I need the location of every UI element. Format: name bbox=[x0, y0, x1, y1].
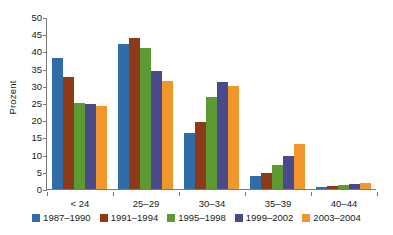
bar bbox=[206, 97, 217, 189]
bar bbox=[283, 156, 294, 189]
legend-item[interactable]: 1999–2002 bbox=[235, 213, 294, 223]
x-tick-mark bbox=[179, 192, 180, 196]
legend-label: 1995–1998 bbox=[178, 213, 226, 223]
y-tick-label: 45 bbox=[6, 30, 42, 40]
bars-layer bbox=[47, 18, 376, 189]
y-tick-label: 35 bbox=[6, 65, 42, 75]
bar bbox=[261, 173, 272, 189]
bar bbox=[294, 144, 305, 189]
bar bbox=[96, 106, 107, 189]
bar bbox=[217, 82, 228, 189]
x-tick-mark bbox=[113, 192, 114, 196]
legend-swatch-icon bbox=[100, 214, 108, 222]
bar-group bbox=[179, 18, 245, 189]
bar bbox=[184, 133, 195, 189]
y-tick-label: 15 bbox=[6, 134, 42, 144]
x-axis-label: 25–29 bbox=[113, 192, 179, 209]
y-tick-label: 10 bbox=[6, 151, 42, 161]
legend-item[interactable]: 1987–1990 bbox=[32, 213, 91, 223]
bar bbox=[85, 104, 96, 189]
bar bbox=[74, 103, 85, 189]
bar bbox=[349, 184, 360, 189]
y-tick-label: 20 bbox=[6, 116, 42, 126]
bar-group bbox=[310, 18, 376, 189]
x-tick-mark bbox=[245, 192, 246, 196]
bar-group bbox=[244, 18, 310, 189]
bar bbox=[272, 165, 283, 189]
bar bbox=[140, 48, 151, 189]
legend-swatch-icon bbox=[32, 214, 40, 222]
legend-label: 1999–2002 bbox=[246, 213, 294, 223]
x-tick-mark bbox=[47, 192, 48, 196]
bar bbox=[118, 44, 129, 189]
x-axis-labels: < 2425–2930–3435–3940–44 bbox=[47, 192, 377, 209]
y-tick-label: 30 bbox=[6, 82, 42, 92]
bar-group bbox=[113, 18, 179, 189]
bar bbox=[52, 58, 63, 189]
y-tick-mark bbox=[43, 190, 47, 191]
y-tick-label: 5 bbox=[6, 168, 42, 178]
x-axis-label: 30–34 bbox=[179, 192, 245, 209]
legend-label: 1991–1994 bbox=[111, 213, 159, 223]
y-tick-label: 40 bbox=[6, 48, 42, 58]
bar bbox=[195, 122, 206, 189]
bar bbox=[338, 185, 349, 189]
legend-item[interactable]: 2003–2004 bbox=[302, 213, 361, 223]
y-tick-label: 25 bbox=[6, 99, 42, 109]
x-axis-label: 40–44 bbox=[311, 192, 377, 209]
x-tick-mark bbox=[377, 192, 378, 196]
bar bbox=[151, 71, 162, 189]
y-tick-label: 50 bbox=[6, 13, 42, 23]
legend-swatch-icon bbox=[235, 214, 243, 222]
bar bbox=[360, 183, 371, 189]
x-axis-label: < 24 bbox=[47, 192, 113, 209]
x-tick-mark bbox=[311, 192, 312, 196]
legend-item[interactable]: 1991–1994 bbox=[100, 213, 159, 223]
x-axis-line bbox=[46, 189, 376, 190]
legend-item[interactable]: 1995–1998 bbox=[167, 213, 226, 223]
bar bbox=[327, 186, 338, 189]
plot-area: 05101520253035404550 bbox=[46, 18, 376, 190]
legend-swatch-icon bbox=[302, 214, 310, 222]
y-tick-label: 0 bbox=[6, 185, 42, 195]
bar bbox=[316, 187, 327, 189]
bar bbox=[228, 86, 239, 189]
legend-label: 2003–2004 bbox=[313, 213, 361, 223]
bar bbox=[162, 81, 173, 189]
chart-legend: 1987–19901991–19941995–19981999–20022003… bbox=[0, 213, 393, 223]
bar bbox=[63, 77, 74, 189]
bar bbox=[250, 176, 261, 189]
bar-chart-figure: Prozent 05101520253035404550 < 2425–2930… bbox=[0, 0, 393, 235]
x-axis-label: 35–39 bbox=[245, 192, 311, 209]
legend-swatch-icon bbox=[167, 214, 175, 222]
legend-label: 1987–1990 bbox=[43, 213, 91, 223]
bar bbox=[129, 38, 140, 189]
bar-group bbox=[47, 18, 113, 189]
